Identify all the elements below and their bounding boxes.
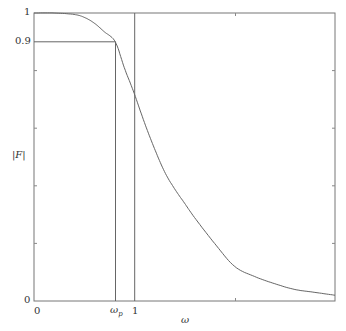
subscript-p: p — [118, 310, 122, 318]
y-axis-label: |F| — [12, 149, 26, 160]
omega-symbol: ω — [110, 304, 118, 315]
x-tick-label-1: 1 — [132, 305, 138, 316]
chart-plot — [0, 0, 346, 331]
plot-frame — [34, 13, 335, 301]
x-tick-label-omega-p: ωp — [110, 304, 123, 318]
y-tick-label-1: 1 — [24, 6, 30, 17]
x-axis-label: ω — [181, 314, 189, 325]
y-axis-ticks — [34, 71, 335, 244]
x-tick-label-0: 0 — [34, 305, 40, 316]
magnitude-curve — [34, 13, 335, 295]
y-tick-label-0: 0 — [24, 294, 30, 305]
y-tick-label-0.9: 0.9 — [15, 35, 31, 46]
